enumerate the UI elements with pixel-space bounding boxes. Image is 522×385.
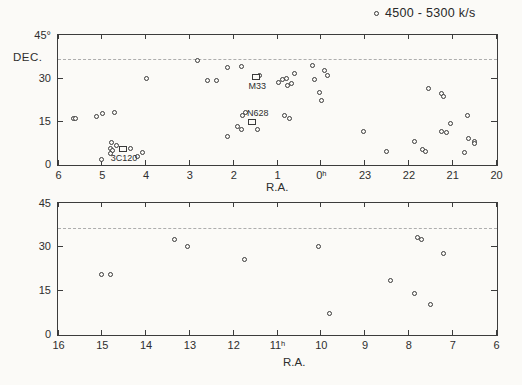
x-tick: [364, 330, 365, 335]
data-point: [419, 237, 424, 242]
figure: 4500 - 5300 k/s M33N6283C120 DEC. R.A. R…: [0, 0, 522, 385]
data-point: [195, 58, 200, 63]
x-tick-top: [189, 35, 190, 39]
x-tick: [452, 330, 453, 335]
x-tick-label: 14: [133, 339, 159, 351]
x-tick-label: 9: [352, 339, 378, 351]
x-tick: [277, 160, 278, 165]
x-tick: [496, 160, 497, 165]
x-tick-label: 23: [352, 169, 378, 181]
x-tick-top: [408, 35, 409, 39]
y-tick-right: [491, 290, 497, 291]
data-point: [361, 129, 366, 134]
data-point: [255, 127, 260, 132]
data-point: [426, 86, 431, 91]
x-tick-top: [145, 203, 146, 207]
data-point: [310, 63, 315, 68]
x-tick-label: 10: [308, 339, 334, 351]
x-tick-top: [233, 203, 234, 207]
x-tick-top: [408, 203, 409, 207]
data-point: [240, 113, 245, 118]
x-tick-top: [101, 35, 102, 39]
data-point: [325, 73, 330, 78]
x-tick-top: [277, 203, 278, 207]
data-point: [185, 244, 190, 249]
x-tick-label: 2: [221, 169, 247, 181]
x-tick-label: 22: [396, 169, 422, 181]
data-point: [428, 302, 433, 307]
data-point: [472, 141, 477, 146]
x-tick-top: [277, 35, 278, 39]
x-tick-top: [58, 203, 59, 207]
galaxy-label: 3C120: [111, 153, 138, 163]
x-tick-top: [189, 203, 190, 207]
data-point: [225, 134, 230, 139]
data-point: [287, 116, 292, 121]
x-tick: [101, 330, 102, 335]
data-point: [282, 113, 287, 118]
galaxy-label: N628: [247, 108, 269, 118]
data-point: [172, 237, 177, 242]
data-point: [384, 149, 389, 154]
x-tick-top: [452, 35, 453, 39]
x-tick-label: 8: [396, 339, 422, 351]
legend: 4500 - 5300 k/s: [374, 6, 476, 20]
y-tick-left: [58, 246, 63, 247]
data-point: [289, 81, 294, 86]
data-point: [205, 78, 210, 83]
data-point: [465, 113, 470, 118]
x-tick-top: [58, 35, 59, 39]
data-point: [214, 78, 219, 83]
y-tick-label: 45: [21, 197, 51, 209]
data-point: [388, 278, 393, 283]
y-tick-right: [491, 121, 497, 122]
x-tick: [277, 330, 278, 335]
data-point: [112, 110, 117, 115]
legend-circle-marker: [374, 11, 379, 16]
y-tick-left: [58, 290, 63, 291]
data-point: [292, 71, 297, 76]
data-point: [423, 149, 428, 154]
data-point: [412, 139, 417, 144]
data-point: [73, 116, 78, 121]
x-tick-label: 6: [484, 339, 510, 351]
data-point: [441, 251, 446, 256]
x-tick-label: 15: [89, 339, 115, 351]
x-tick-label: 21: [440, 169, 466, 181]
x-tick-top: [364, 203, 365, 207]
y-tick-label: 0: [21, 328, 51, 340]
data-point: [441, 94, 446, 99]
x-tick: [189, 330, 190, 335]
x-tick-top: [364, 35, 365, 39]
x-tick-label: 6: [46, 169, 72, 181]
y-tick-label: 45°: [21, 29, 51, 41]
x-tick: [496, 330, 497, 335]
x-tick-top: [320, 35, 321, 39]
data-point: [284, 76, 289, 81]
galaxy-marker: [252, 74, 260, 80]
x-tick: [233, 330, 234, 335]
data-point: [108, 272, 113, 277]
x-tick: [320, 330, 321, 335]
data-point: [242, 257, 247, 262]
data-point: [239, 64, 244, 69]
x-tick: [145, 160, 146, 165]
data-point: [99, 157, 104, 162]
y-tick-right: [491, 246, 497, 247]
scatter-panel-north: M33N6283C120: [57, 34, 498, 166]
data-point: [100, 111, 105, 116]
scatter-panel-south: [57, 202, 498, 336]
data-point: [317, 90, 322, 95]
y-tick-left: [58, 78, 63, 79]
x-tick-label: 20: [484, 169, 510, 181]
x-tick: [189, 160, 190, 165]
data-point: [412, 291, 417, 296]
y-tick-label: 15: [21, 115, 51, 127]
dec-axis-title: DEC.: [13, 51, 42, 63]
x-tick: [58, 330, 59, 335]
ra-axis-title-north: R.A.: [266, 181, 288, 193]
x-tick-label: 4: [133, 169, 159, 181]
y-tick-label: 15: [21, 284, 51, 296]
x-tick-top: [452, 203, 453, 207]
y-tick-label: 30: [21, 240, 51, 252]
